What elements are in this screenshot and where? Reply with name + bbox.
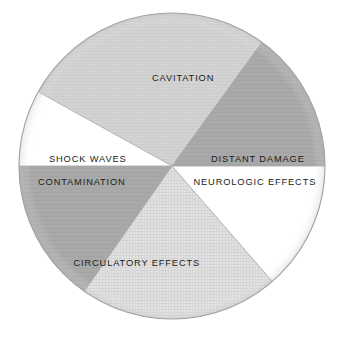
pie-label-circulatory-effects: CIRCULATORY EFFECTS [74,259,201,268]
pie-chart-figure: CAVITATION DISTANT DAMAGE NEUROLOGIC EFF… [0,0,344,340]
pie-edge-shading [19,13,325,319]
pie-label-contamination: CONTAMINATION [38,178,126,187]
pie-label-cavitation: CAVITATION [152,74,214,83]
pie-chart [0,0,344,340]
pie-label-shock-waves: SHOCK WAVES [49,155,127,164]
pie-label-neurologic-effects: NEUROLOGIC EFFECTS [194,178,317,187]
pie-label-distant-damage: DISTANT DAMAGE [211,155,305,164]
figure-caption [0,330,344,340]
